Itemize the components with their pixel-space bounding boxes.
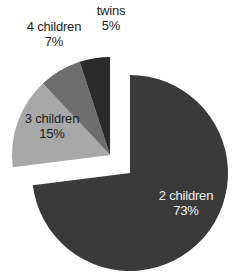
pie-label-4-children-category: 4 children bbox=[8, 20, 100, 35]
pie-label-2-children: 2 children 73% bbox=[146, 189, 226, 218]
pie-label-3-children-value: 15% bbox=[10, 127, 94, 142]
pie-label-2-children-category: 2 children bbox=[146, 189, 226, 204]
pie-label-3-children-category: 3 children bbox=[10, 112, 94, 127]
pie-label-4-children: 4 children 7% bbox=[8, 20, 100, 49]
pie-label-4-children-value: 7% bbox=[8, 35, 100, 50]
pie-label-3-children: 3 children 15% bbox=[10, 112, 94, 141]
pie-chart-figure: twins 5% 4 children 7% 3 children 15% 2 … bbox=[0, 0, 240, 278]
pie-label-twins-category: twins bbox=[83, 4, 139, 19]
pie-label-2-children-value: 73% bbox=[146, 204, 226, 219]
